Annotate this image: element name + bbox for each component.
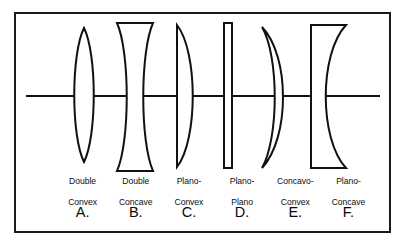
lens-name-label-e: Concavo- Convex [269, 166, 322, 192]
lens-name-label-c: Plano- Convex [162, 166, 215, 192]
lens-name-label-d: Plano- Plano [216, 166, 269, 192]
lens-name-line1-d: Plano- [230, 176, 255, 186]
lens-letter-b: B. [109, 203, 162, 227]
lens-name-line1-b: Double [122, 176, 149, 186]
lens-shape-double-convex [74, 28, 94, 162]
lens-name-label-a: Double Convex [56, 166, 109, 192]
lens-name-line1-f: Plano- [336, 176, 361, 186]
lens-name-line1-e: Concavo- [277, 176, 313, 186]
lens-name-line1-a: Double [69, 176, 96, 186]
lens-shape-plano-convex [177, 25, 193, 167]
lens-letter-label-row: A. B. C. D. E. F. [14, 203, 391, 227]
lens-shape-concavo-convex [262, 27, 283, 168]
lens-name-line1-c: Plano- [177, 176, 202, 186]
lens-name-label-row: Double Convex Double Concave Plano- Conv… [14, 166, 391, 192]
lens-letter-c: C. [162, 203, 215, 227]
lens-letter-e: E. [269, 203, 322, 227]
lens-shape-plano-plano [224, 23, 232, 168]
lens-name-label-f: Plano- Concave [322, 166, 375, 192]
lens-letter-f: F. [322, 203, 375, 227]
lens-letter-a: A. [56, 203, 109, 227]
lens-name-label-b: Double Concave [109, 166, 162, 192]
lens-letter-d: D. [216, 203, 269, 227]
lens-types-figure: Double Convex Double Concave Plano- Conv… [0, 0, 407, 245]
